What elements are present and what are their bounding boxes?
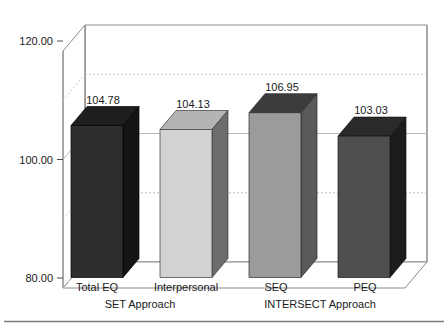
bar-interpersonal — [160, 111, 228, 278]
y-tick-label-80: 80.00 — [25, 272, 53, 284]
y-axis-ticks: 120.00 100.00 80.00 — [19, 35, 63, 284]
y-tick-label-120: 120.00 — [19, 35, 53, 47]
value-label-seq: 106.95 — [265, 81, 299, 93]
bar-front-face — [249, 113, 301, 278]
category-label-total-eq: Total EQ — [76, 281, 119, 293]
group-label-set-approach: SET Approach — [105, 298, 176, 310]
bar-seq — [249, 94, 317, 278]
bar-peq — [338, 117, 406, 277]
y-tick-label-100: 100.00 — [19, 154, 53, 166]
chart-canvas: 120.00 100.00 80.00 — [0, 0, 448, 329]
group-label-intersect-approach: INTERSECT Approach — [264, 298, 376, 310]
bar-side-face — [390, 117, 406, 277]
value-label-interpersonal: 104.13 — [176, 98, 210, 110]
bar-chart: 120.00 100.00 80.00 — [0, 0, 448, 329]
bar-side-face — [212, 111, 228, 278]
group-labels: SET Approach INTERSECT Approach — [105, 298, 376, 310]
bar-side-face — [123, 107, 139, 278]
category-label-interpersonal: Interpersonal — [154, 281, 218, 293]
bar-front-face — [338, 136, 390, 277]
value-label-total-eq: 104.78 — [86, 94, 120, 106]
bar-front-face — [160, 130, 212, 278]
bar-front-face — [71, 126, 123, 278]
bar-side-face — [301, 94, 317, 278]
value-label-peq: 103.03 — [354, 104, 388, 116]
category-label-peq: PEQ — [353, 281, 377, 293]
bar-total-eq — [71, 107, 139, 278]
category-label-seq: SEQ — [264, 281, 288, 293]
